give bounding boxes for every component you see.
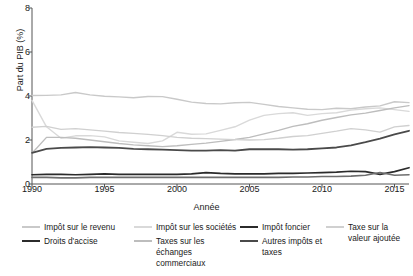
series-line-0 [32,92,409,109]
chart-lines-svg [0,0,413,200]
legend-swatch-icon [22,226,40,228]
x-tick-label: 1995 [94,184,114,194]
legend-column-0: Impôt sur le revenuDroits d'accise [22,222,134,250]
legend-label: Autres impôts et taxes [262,236,324,258]
legend-entry[interactable]: Taxe sur la valeur ajoutée [326,222,412,244]
legend-label: Taxe sur la valeur ajoutée [348,222,412,244]
chart-legend: Impôt sur le revenuDroits d'acciseImpôt … [0,222,413,276]
x-axis-ticks: 199019952000200520102015 [0,184,413,202]
legend-swatch-icon [240,240,258,242]
legend-label: Droits d'accise [44,236,98,247]
chart-figure: Part du PIB (%) 02468 199019952000200520… [0,0,413,276]
series-line-1 [32,100,409,143]
legend-swatch-icon [240,226,258,228]
x-tick-label: 2000 [167,184,187,194]
legend-label: Impôt sur le revenu [44,222,115,233]
series-line-3 [32,125,409,140]
x-tick-label: 2010 [312,184,332,194]
legend-entry[interactable]: Autres impôts et taxes [240,236,324,258]
legend-label: Impôt sur les sociétés [156,222,236,233]
plot-area: Part du PIB (%) 02468 199019952000200520… [0,0,413,200]
legend-label: Taxes sur les échanges commerciaux [156,236,238,269]
legend-swatch-icon [22,240,40,242]
legend-entry[interactable]: Taxes sur les échanges commerciaux [134,236,238,269]
x-tick-label: 2005 [239,184,259,194]
legend-label: Impôt foncier [262,222,310,233]
x-tick-label: 2015 [384,184,404,194]
legend-column-2: Impôt foncierAutres impôts et taxes [240,222,324,261]
series-line-5 [32,168,409,175]
legend-swatch-icon [134,240,152,242]
legend-entry[interactable]: Impôt sur le revenu [22,222,134,233]
legend-swatch-icon [326,226,344,228]
legend-entry[interactable]: Droits d'accise [22,236,134,247]
x-tick-label: 1990 [22,184,42,194]
legend-entry[interactable]: Impôt foncier [240,222,324,233]
legend-column-1: Impôt sur les sociétésTaxes sur les écha… [134,222,238,272]
legend-column-3: Taxe sur la valeur ajoutée [326,222,412,247]
x-axis-label: Année [0,202,413,212]
legend-entry[interactable]: Impôt sur les sociétés [134,222,238,233]
legend-swatch-icon [134,226,152,228]
